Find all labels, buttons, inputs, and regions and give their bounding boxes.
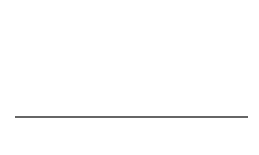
gaussian-chart: [0, 0, 259, 155]
